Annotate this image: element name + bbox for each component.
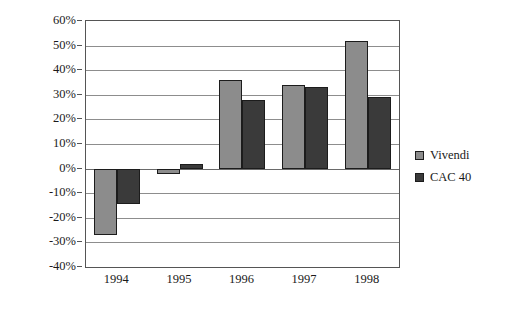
bar-cac-40-1996 bbox=[242, 100, 265, 169]
bar-group-1994 bbox=[86, 21, 149, 267]
x-axis-label-1995: 1995 bbox=[166, 272, 191, 287]
x-axis-label-1998: 1998 bbox=[354, 272, 379, 287]
plot-area bbox=[85, 20, 400, 268]
y-axis: 60%50%40%30%20%10%0%-10%-20%-30%-40% bbox=[0, 20, 82, 268]
y-axis-tick-label: 10% bbox=[53, 136, 76, 151]
y-axis-tick bbox=[77, 94, 82, 95]
y-axis-tick-label: -40% bbox=[49, 259, 76, 274]
y-axis-tick bbox=[77, 168, 82, 169]
y-axis-tick bbox=[77, 143, 82, 144]
bar-vivendi-1996 bbox=[219, 80, 242, 169]
bar-cac-40-1998 bbox=[368, 97, 391, 168]
y-axis-tick-label: 0% bbox=[59, 160, 76, 175]
bar-vivendi-1995 bbox=[157, 169, 180, 174]
bar-vivendi-1998 bbox=[345, 41, 368, 169]
bar-cac-40-1997 bbox=[305, 87, 328, 168]
y-axis-tick bbox=[77, 241, 82, 242]
y-axis-tick bbox=[77, 20, 82, 21]
legend-label: CAC 40 bbox=[430, 170, 471, 185]
y-axis-tick-label: 50% bbox=[53, 37, 76, 52]
bar-cac-40-1994 bbox=[117, 169, 140, 205]
y-axis-tick-label: 20% bbox=[53, 111, 76, 126]
legend-item-vivendi: Vivendi bbox=[415, 148, 471, 163]
x-axis: 19941995199619971998 bbox=[85, 272, 400, 296]
y-axis-tick bbox=[77, 69, 82, 70]
y-axis-tick-label: 30% bbox=[53, 86, 76, 101]
legend-swatch-icon bbox=[415, 173, 424, 182]
y-axis-tick bbox=[77, 266, 82, 267]
bar-vivendi-1994 bbox=[94, 169, 117, 235]
y-axis-tick bbox=[77, 217, 82, 218]
x-axis-label-1997: 1997 bbox=[292, 272, 317, 287]
x-axis-label-1994: 1994 bbox=[104, 272, 129, 287]
y-axis-tick-label: -20% bbox=[49, 209, 76, 224]
bar-group-1996 bbox=[211, 21, 274, 267]
legend: VivendiCAC 40 bbox=[415, 148, 471, 185]
y-axis-tick-label: -30% bbox=[49, 234, 76, 249]
x-axis-label-1996: 1996 bbox=[229, 272, 254, 287]
legend-item-cac-40: CAC 40 bbox=[415, 170, 471, 185]
y-axis-tick-label: -10% bbox=[49, 185, 76, 200]
bar-group-1997 bbox=[274, 21, 337, 267]
y-axis-tick-label: 60% bbox=[53, 13, 76, 28]
bar-cac-40-1995 bbox=[180, 164, 203, 169]
bar-group-1998 bbox=[336, 21, 399, 267]
bar-group-1995 bbox=[149, 21, 212, 267]
y-axis-tick bbox=[77, 45, 82, 46]
y-axis-tick bbox=[77, 192, 82, 193]
legend-swatch-icon bbox=[415, 151, 424, 160]
y-axis-tick-label: 40% bbox=[53, 62, 76, 77]
legend-label: Vivendi bbox=[430, 148, 470, 163]
bar-groups bbox=[86, 21, 399, 267]
bar-chart: 60%50%40%30%20%10%0%-10%-20%-30%-40% 199… bbox=[0, 0, 506, 310]
y-axis-tick bbox=[77, 118, 82, 119]
bar-vivendi-1997 bbox=[282, 85, 305, 169]
